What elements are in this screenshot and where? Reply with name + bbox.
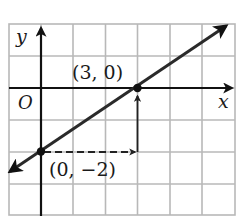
grid xyxy=(9,24,235,215)
point-x-intercept xyxy=(133,84,141,92)
point-label-y-intercept: (0, −2) xyxy=(49,158,116,180)
y-axis-label: y xyxy=(15,25,27,47)
point-y-intercept xyxy=(37,147,45,155)
origin-label: O xyxy=(18,92,33,113)
point-label-x-intercept: (3, 0) xyxy=(72,61,123,83)
coordinate-plane: y x O (3, 0) (0, −2) xyxy=(0,0,248,222)
x-axis-label: x xyxy=(218,90,229,112)
